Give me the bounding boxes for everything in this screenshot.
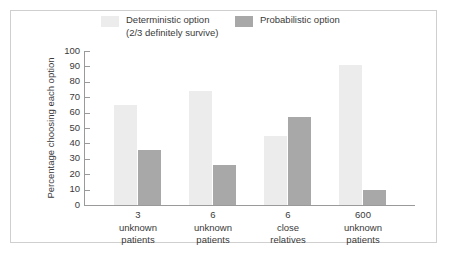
legend-entry-deterministic: Deterministic option (2/3 definitely sur… bbox=[101, 14, 218, 39]
y-tick-100: 100 bbox=[84, 51, 90, 52]
y-tick-0: 0 bbox=[84, 205, 90, 206]
y-tick-50: 50 bbox=[84, 128, 90, 129]
y-tick-80: 80 bbox=[84, 82, 90, 83]
y-tick-mark bbox=[85, 190, 90, 191]
legend-label-probabilistic: Probabilistic option bbox=[260, 14, 340, 27]
y-tick-label: 10 bbox=[69, 183, 80, 194]
bar-deterministic-3 bbox=[264, 136, 287, 205]
y-tick-label: 20 bbox=[69, 168, 80, 179]
y-tick-mark bbox=[85, 51, 90, 52]
y-tick-label: 0 bbox=[75, 199, 80, 210]
y-tick-60: 60 bbox=[84, 113, 90, 114]
bar-group-2: 6 unknown patients bbox=[189, 51, 236, 205]
y-tick-mark bbox=[85, 97, 90, 98]
y-tick-mark bbox=[85, 82, 90, 83]
y-tick-label: 30 bbox=[69, 152, 80, 163]
chart-figure: Deterministic option (2/3 definitely sur… bbox=[0, 0, 450, 259]
bar-deterministic-2 bbox=[189, 91, 212, 205]
y-tick-mark bbox=[85, 143, 90, 144]
y-tick-mark bbox=[85, 128, 90, 129]
y-tick-10: 10 bbox=[84, 190, 90, 191]
legend-entry-probabilistic: Probabilistic option bbox=[235, 14, 340, 27]
legend-swatch-deterministic bbox=[101, 16, 119, 27]
y-tick-label: 50 bbox=[69, 122, 80, 133]
y-tick-label: 70 bbox=[69, 91, 80, 102]
y-axis-title: Percentage choosing each option bbox=[44, 51, 58, 205]
legend-swatch-probabilistic bbox=[235, 16, 253, 27]
legend-label-deterministic-line1: Deterministic option bbox=[126, 14, 209, 25]
bar-deterministic-1 bbox=[114, 105, 137, 205]
bar-probabilistic-4 bbox=[363, 190, 386, 205]
legend-label-deterministic: Deterministic option (2/3 definitely sur… bbox=[126, 14, 218, 39]
y-tick-label: 100 bbox=[64, 45, 80, 56]
x-axis-label-4: 600 unknown patients bbox=[308, 209, 418, 247]
x-axis-line bbox=[84, 205, 415, 206]
y-tick-label: 40 bbox=[69, 137, 80, 148]
y-tick-mark bbox=[85, 159, 90, 160]
y-tick-40: 40 bbox=[84, 143, 90, 144]
y-tick-30: 30 bbox=[84, 159, 90, 160]
bar-group-3: 6 close relatives bbox=[264, 51, 311, 205]
y-tick-mark bbox=[85, 66, 90, 67]
bar-deterministic-4 bbox=[339, 65, 362, 205]
bar-probabilistic-3 bbox=[288, 117, 311, 205]
bar-probabilistic-2 bbox=[213, 165, 236, 205]
chart-legend: Deterministic option (2/3 definitely sur… bbox=[95, 14, 375, 48]
plot-area: 0102030405060708090100 3 unknown patient… bbox=[84, 51, 415, 205]
y-tick-90: 90 bbox=[84, 66, 90, 67]
bar-group-4: 600 unknown patients bbox=[339, 51, 386, 205]
bar-group-1: 3 unknown patients bbox=[114, 51, 161, 205]
y-tick-label: 80 bbox=[69, 75, 80, 86]
y-tick-label: 60 bbox=[69, 106, 80, 117]
y-tick-70: 70 bbox=[84, 97, 90, 98]
y-tick-mark bbox=[85, 113, 90, 114]
y-tick-mark bbox=[85, 174, 90, 175]
y-tick-label: 90 bbox=[69, 60, 80, 71]
y-tick-mark bbox=[85, 205, 90, 206]
bar-probabilistic-1 bbox=[138, 150, 161, 205]
y-tick-20: 20 bbox=[84, 174, 90, 175]
legend-label-deterministic-line2: (2/3 definitely survive) bbox=[126, 27, 218, 38]
